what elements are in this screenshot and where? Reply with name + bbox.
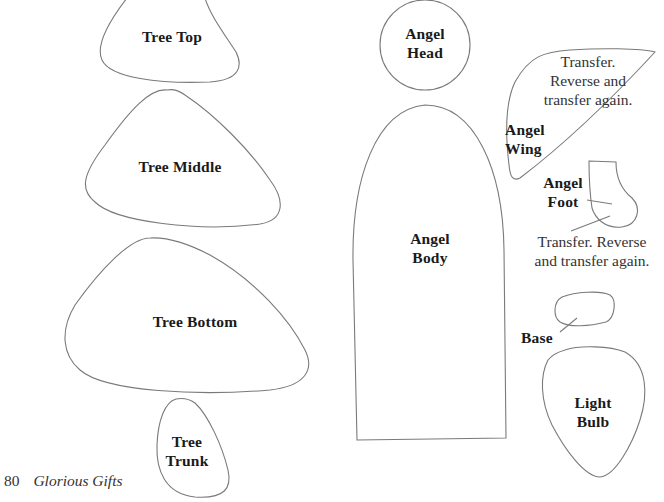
angel-body-label: Angel Body	[398, 229, 462, 267]
tree-top-label: Tree Top	[112, 27, 232, 46]
page-number: 80	[4, 472, 20, 489]
tree-bottom-label: Tree Bottom	[115, 312, 275, 331]
angel-foot-label-line1: Angel	[538, 173, 588, 192]
angel-wing-label-line1: Angel	[505, 120, 559, 139]
angel-wing-note-line2: Reverse and	[520, 71, 656, 90]
angel-head-label-line2: Head	[395, 43, 455, 62]
light-bulb-label-line1: Light	[565, 393, 621, 412]
tree-trunk-label-line2: Trunk	[155, 451, 219, 470]
tree-middle-label: Tree Middle	[110, 157, 250, 176]
angel-foot-outline	[589, 161, 637, 227]
base-label: Base	[521, 328, 561, 347]
angel-foot-note-line1: Transfer. Reverse	[520, 232, 664, 251]
page-footer: 80 Glorious Gifts	[4, 472, 123, 490]
angel-wing-note-line1: Transfer.	[520, 52, 656, 71]
angel-wing-label: Angel Wing	[505, 120, 559, 158]
angel-body-label-line2: Body	[398, 248, 462, 267]
angel-foot-label: Angel Foot	[538, 173, 588, 211]
base-outline	[555, 292, 614, 326]
angel-body-outline	[353, 105, 506, 440]
base-leader	[560, 318, 577, 332]
angel-wing-note-line3: transfer again.	[520, 90, 656, 109]
angel-body-label-line1: Angel	[398, 229, 462, 248]
tree-trunk-label: Tree Trunk	[155, 432, 219, 470]
book-title: Glorious Gifts	[33, 472, 122, 489]
tree-trunk-label-line1: Tree	[155, 432, 219, 451]
angel-head-label-line1: Angel	[395, 24, 455, 43]
light-bulb-label-line2: Bulb	[565, 412, 621, 431]
angel-wing-transfer-note: Transfer. Reverse and transfer again.	[520, 52, 656, 109]
light-bulb-label: Light Bulb	[565, 393, 621, 431]
angel-foot-label-line2: Foot	[538, 192, 588, 211]
angel-foot-note-line2: and transfer again.	[520, 251, 664, 270]
angel-foot-transfer-note: Transfer. Reverse and transfer again.	[520, 232, 664, 270]
angel-wing-label-line2: Wing	[505, 139, 559, 158]
angel-head-label: Angel Head	[395, 24, 455, 62]
